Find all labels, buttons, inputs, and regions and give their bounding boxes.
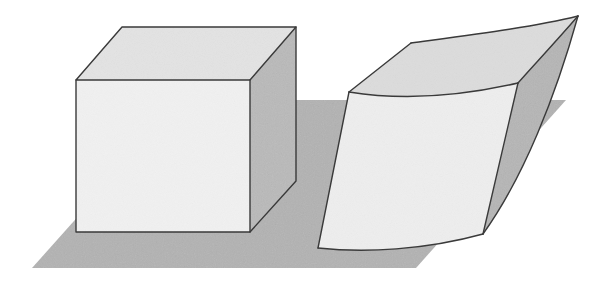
- figure-root: Cube and deformed cube resting on a grou…: [0, 0, 616, 289]
- cube-front-face: [76, 80, 250, 232]
- deformed-cube-group: [318, 16, 578, 250]
- cube-group: [76, 27, 296, 232]
- cube-deformation-illustration: [0, 0, 616, 289]
